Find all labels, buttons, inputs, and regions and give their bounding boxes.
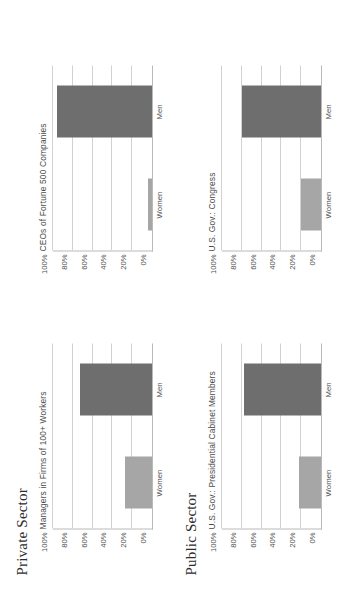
plot-area-cabinet: 0%20%40%60%80%100% (222, 343, 322, 529)
bar-men (80, 363, 152, 415)
y-axis-tick-label: 100% (209, 532, 218, 551)
bar-column-men (53, 354, 152, 424)
x-label-men: Men (324, 76, 336, 147)
y-axis-tick-label: 20% (119, 532, 128, 547)
bar-men (242, 85, 321, 137)
x-label-women: Women (155, 169, 167, 240)
y-axis-tick-label: 20% (119, 254, 128, 269)
bar-men (244, 363, 321, 415)
y-axis-tick-label: 100% (40, 532, 49, 551)
y-axis-tick-label: 20% (288, 532, 297, 547)
x-axis-labels-managers: Women Men (155, 343, 167, 529)
bar-column-men (53, 76, 152, 146)
x-label-men: Men (155, 76, 167, 147)
section-title-public-sector: Public Sector (183, 492, 200, 575)
bar-women (148, 178, 152, 230)
y-axis-tick-label: 0% (139, 254, 148, 265)
bar-group (53, 343, 152, 528)
y-axis-tick-label: 100% (40, 254, 49, 273)
y-axis-tick-label: 80% (228, 532, 237, 547)
bar-men (57, 85, 152, 137)
bar-column-women (53, 447, 152, 517)
y-axis-tick-label: 100% (209, 254, 218, 273)
y-axis-tick-label: 0% (308, 254, 317, 265)
x-label-women: Women (155, 447, 167, 518)
section-title-private-sector: Private Sector (14, 488, 31, 575)
bar-women (125, 456, 152, 508)
bar-women (299, 456, 321, 508)
bar-group (222, 343, 321, 528)
plot-area-congress: 0%20%40%60%80%100% (222, 65, 322, 251)
panel-title-ceos: CEOs of Fortune 500 Companies (38, 123, 48, 251)
bar-column-women (222, 447, 321, 517)
chart-panel-cabinet: U.S. Gov.: Presidential Cabinet Members … (209, 341, 343, 569)
y-axis-tick-label: 80% (228, 254, 237, 269)
x-axis-labels-cabinet: Women Men (324, 343, 336, 529)
bar-women (301, 178, 321, 230)
x-axis-labels-congress: Women Men (324, 65, 336, 251)
y-axis-tick-label: 40% (268, 532, 277, 547)
rotated-figure-wrapper: Private Sector Public Sector Managers in… (0, 0, 358, 591)
bar-column-women (53, 169, 152, 239)
y-axis-tick-label: 60% (248, 532, 257, 547)
bar-column-men (222, 354, 321, 424)
plot-area-ceos: 0%20%40%60%80%100% (53, 65, 153, 251)
panel-title-congress: U.S. Gov.: Congress (207, 172, 217, 251)
bar-column-men (222, 76, 321, 146)
panel-title-cabinet: U.S. Gov.: Presidential Cabinet Members (207, 371, 217, 529)
x-label-men: Men (155, 354, 167, 425)
bar-group (222, 65, 321, 250)
chart-panel-congress: U.S. Gov.: Congress 0%20%40%60%80%100% W… (209, 63, 343, 291)
y-axis-tick-label: 60% (79, 532, 88, 547)
x-label-women: Women (324, 447, 336, 518)
x-axis-labels-ceos: Women Men (155, 65, 167, 251)
chart-panel-ceos: CEOs of Fortune 500 Companies 0%20%40%60… (40, 63, 174, 291)
y-axis-tick-label: 60% (79, 254, 88, 269)
figure-canvas: Private Sector Public Sector Managers in… (0, 0, 358, 591)
y-axis-tick-label: 20% (288, 254, 297, 269)
y-axis-tick-label: 0% (308, 532, 317, 543)
plot-area-managers: 0%20%40%60%80%100% (53, 343, 153, 529)
bar-group (53, 65, 152, 250)
chart-panel-managers: Managers in Firms of 100+ Workers 0%20%4… (40, 341, 174, 569)
y-axis-tick-label: 40% (99, 532, 108, 547)
y-axis-tick-label: 60% (248, 254, 257, 269)
x-label-women: Women (324, 169, 336, 240)
x-label-men: Men (324, 354, 336, 425)
bar-column-women (222, 169, 321, 239)
y-axis-tick-label: 80% (59, 532, 68, 547)
y-axis-tick-label: 80% (59, 254, 68, 269)
panel-title-managers: Managers in Firms of 100+ Workers (38, 391, 48, 529)
y-axis-tick-label: 0% (139, 532, 148, 543)
y-axis-tick-label: 40% (99, 254, 108, 269)
y-axis-tick-label: 40% (268, 254, 277, 269)
